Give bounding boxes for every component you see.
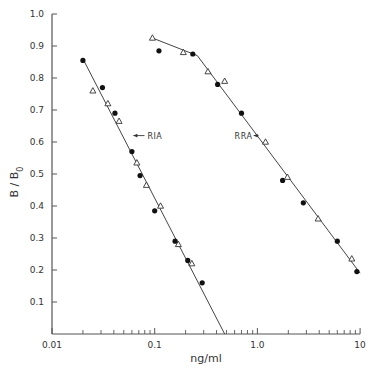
filled-circle-marker [185,258,190,263]
binding-curve-chart: 0.10.20.30.40.50.60.70.80.91.00.010.11.0… [0,0,374,372]
open-triangle-marker [180,49,186,54]
y-tick-label: 1.0 [30,9,45,19]
x-axis-title: ng/ml [190,352,221,365]
y-tick-label: 0.8 [30,73,45,83]
y-tick-label: 0.3 [30,233,44,243]
open-triangle-marker [349,256,355,261]
label-rra: RRA [235,132,253,141]
filled-circle-marker [100,85,105,90]
filled-circle-marker [239,111,244,116]
filled-circle-marker [354,269,359,274]
open-triangle-marker [143,182,149,187]
open-triangle-marker [284,174,290,179]
open-triangle-marker [90,88,96,93]
filled-circle-marker [152,208,157,213]
filled-circle-marker [129,149,134,154]
y-axis-title: B / B0 [8,167,25,198]
filled-circle-marker [80,58,85,63]
y-tick-label: 0.5 [30,169,44,179]
open-triangle-marker [149,35,155,40]
annotations: RIARRA [133,132,258,141]
y-tick-label: 0.2 [30,265,44,275]
filled-circle-marker [112,111,117,116]
open-triangle-marker [205,68,211,73]
filled-circle-marker [200,280,205,285]
filled-circle-marker [215,82,220,87]
series-layer [80,35,360,334]
y-tick-label: 0.9 [30,41,45,51]
filled-circle-marker [137,173,142,178]
filled-circle-marker [335,239,340,244]
label-ria: RIA [147,132,162,141]
open-triangle-marker [222,78,228,83]
open-triangle-marker [315,216,321,221]
filled-circle-marker [156,48,161,53]
x-tick-label: 0.01 [42,340,62,350]
x-tick-label: 1.0 [250,340,265,350]
axes: 0.10.20.30.40.50.60.70.80.91.00.010.11.0… [30,9,366,350]
y-tick-label: 0.1 [30,297,44,307]
y-tick-label: 0.6 [30,137,45,147]
filled-circle-marker [301,200,306,205]
filled-circle-marker [190,51,195,56]
fit-line-rra [152,38,360,273]
y-tick-label: 0.4 [30,201,45,211]
open-triangle-marker [116,118,122,123]
x-tick-label: 10 [354,340,366,350]
fit-line-ria [83,59,225,334]
y-tick-label: 0.7 [30,105,44,115]
open-triangle-marker [263,139,269,144]
arrow-head-icon [133,134,137,138]
x-tick-label: 0.1 [148,340,162,350]
